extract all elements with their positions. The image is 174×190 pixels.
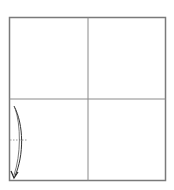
quadrant-diagram [0,0,174,190]
curved-arrow-outer [14,106,22,176]
